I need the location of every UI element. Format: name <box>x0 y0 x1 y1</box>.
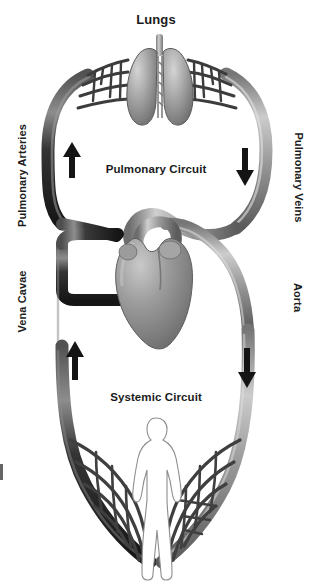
pulmonary-capillary-bed-right <box>188 60 236 108</box>
diagram-artwork <box>0 0 312 582</box>
left-lung <box>127 48 157 125</box>
lungs-label: Lungs <box>0 13 312 26</box>
heart-organ <box>116 238 193 349</box>
pulmonary-arteries-label: Pulmonary Arteries <box>17 111 28 241</box>
pulmonary-capillary-bed <box>78 60 128 108</box>
edge-artifact <box>0 464 3 480</box>
vena-cavae-label: Vena Cavae <box>17 252 28 352</box>
superior-vena-cava <box>62 234 118 244</box>
circulatory-system-diagram: Lungs Pulmonary Circuit Systemic Circuit… <box>0 0 312 582</box>
vena-cavae-vessels <box>58 234 120 346</box>
right-atrium <box>159 241 181 259</box>
lungs-organ <box>127 34 193 125</box>
aorta-label: Aorta <box>292 253 303 343</box>
systemic-circuit-label: Systemic Circuit <box>0 392 312 404</box>
pulmonary-veins-label: Pulmonary Veins <box>293 113 304 243</box>
pulmonary-circuit-label: Pulmonary Circuit <box>0 164 312 176</box>
inferior-vena-cava <box>62 244 120 300</box>
left-atrium <box>119 244 137 260</box>
